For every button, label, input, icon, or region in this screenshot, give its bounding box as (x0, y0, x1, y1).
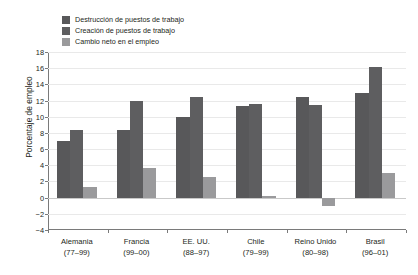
bar (309, 105, 322, 198)
bar (57, 141, 70, 198)
x-tick-mark (346, 230, 347, 233)
y-tick-mark (45, 84, 48, 85)
gridline (48, 149, 406, 150)
legend-swatch-cambio-neto (62, 38, 70, 46)
y-tick-label: 16 (36, 64, 44, 73)
y-tick-mark (45, 117, 48, 118)
bar (190, 97, 203, 198)
gridline (48, 198, 406, 199)
y-axis-line (48, 52, 49, 230)
y-tick-label: 14 (36, 80, 44, 89)
gridline (48, 52, 406, 53)
bar (322, 198, 335, 206)
x-label-country: Brasil (362, 237, 388, 248)
bar (296, 97, 309, 198)
gridline (48, 165, 406, 166)
bar (83, 187, 96, 198)
y-tick-label: −4 (36, 226, 44, 235)
gridline (48, 68, 406, 69)
x-group-label: EE. UU.(88–97) (182, 237, 209, 258)
x-group-label: Brasil(96–01) (362, 237, 388, 258)
y-tick-mark (45, 165, 48, 166)
x-tick-mark (48, 230, 49, 233)
bar (236, 106, 249, 197)
y-tick-label: 0 (40, 193, 44, 202)
bar (355, 93, 368, 197)
y-tick-mark (45, 181, 48, 182)
x-label-country: Chile (243, 237, 269, 248)
x-tick-mark (287, 230, 288, 233)
y-tick-label: 8 (40, 128, 44, 137)
bar (70, 130, 83, 198)
legend-item-creacion: Creación de puestos de trabajo (62, 26, 312, 36)
x-label-period: (99–00) (123, 248, 149, 259)
bar (117, 130, 130, 197)
legend-item-cambio-neto: Cambio neto en el empleo (62, 37, 312, 47)
y-tick-label: 18 (36, 48, 44, 57)
legend-swatch-destruccion (62, 16, 70, 24)
y-tick-mark (45, 149, 48, 150)
y-tick-label: 2 (40, 177, 44, 186)
legend-label-creacion: Creación de puestos de trabajo (75, 27, 175, 35)
x-label-period: (79–99) (243, 248, 269, 259)
y-tick-label: 6 (40, 145, 44, 154)
x-label-country: Francia (123, 237, 149, 248)
bar (249, 104, 262, 198)
y-tick-mark (45, 68, 48, 69)
legend-item-destruccion: Destrucción de puestos de trabajo (62, 15, 312, 25)
x-label-country: Alemania (61, 237, 93, 248)
gridline (48, 117, 406, 118)
x-label-country: Reino Unido (295, 237, 337, 248)
y-tick-mark (45, 133, 48, 134)
bar (203, 177, 216, 197)
x-tick-mark (108, 230, 109, 233)
gridline (48, 214, 406, 215)
y-tick-mark (45, 214, 48, 215)
gridline (48, 84, 406, 85)
plot-area: 181614121086420−2−4 Alemania(77–99)Franc… (48, 52, 406, 230)
legend-label-cambio-neto: Cambio neto en el empleo (75, 38, 159, 46)
bar (369, 67, 382, 197)
gridline (48, 133, 406, 134)
bar (176, 117, 189, 198)
x-label-period: (77–99) (61, 248, 93, 259)
x-group-label: Alemania(77–99) (61, 237, 93, 258)
bar (262, 196, 275, 198)
x-tick-mark (406, 230, 407, 233)
x-group-label: Francia(99–00) (123, 237, 149, 258)
y-tick-label: −2 (36, 209, 44, 218)
bar (382, 173, 395, 198)
x-label-period: (88–97) (182, 248, 209, 259)
x-label-period: (96–01) (362, 248, 388, 259)
x-group-label: Chile(79–99) (243, 237, 269, 258)
y-tick-mark (45, 101, 48, 102)
gridline (48, 101, 406, 102)
bar (130, 101, 143, 198)
x-tick-mark (167, 230, 168, 233)
y-tick-mark (45, 198, 48, 199)
y-axis-title: Porcentaje de empleo (24, 47, 34, 187)
x-label-period: (80–98) (295, 248, 337, 259)
y-tick-mark (45, 52, 48, 53)
y-tick-label: 10 (36, 112, 44, 121)
legend-swatch-creacion (62, 27, 70, 35)
legend-label-destruccion: Destrucción de puestos de trabajo (75, 16, 184, 24)
gridline (48, 181, 406, 182)
bar-chart: Destrucción de puestos de trabajo Creaci… (0, 0, 418, 275)
x-tick-mark (227, 230, 228, 233)
y-tick-label: 12 (36, 96, 44, 105)
bar (143, 168, 156, 198)
chart-legend: Destrucción de puestos de trabajo Creaci… (62, 15, 312, 48)
y-tick-label: 4 (40, 161, 44, 170)
x-group-label: Reino Unido(80–98) (295, 237, 337, 258)
x-label-country: EE. UU. (182, 237, 209, 248)
